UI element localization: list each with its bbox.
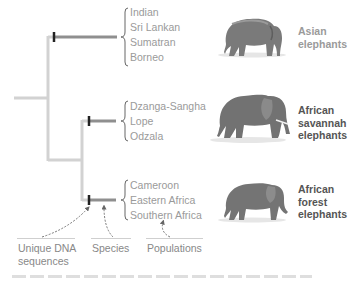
legend-species: Species	[92, 242, 129, 255]
population-item: Sri Lankan	[130, 20, 180, 35]
forest-population-list: Cameroon Eastern Africa Southern Africa	[130, 178, 202, 223]
label-line: Asian	[298, 25, 347, 38]
population-item: Lope	[130, 114, 206, 129]
population-item: Dzanga-Sangha	[130, 99, 206, 114]
label-line: forest	[298, 196, 347, 209]
african-forest-elephant-image	[218, 183, 288, 222]
population-item: Cameroon	[130, 178, 202, 193]
african-savannah-elephant-image	[210, 95, 290, 143]
population-item: Odzala	[130, 129, 206, 144]
label-line: elephants	[298, 38, 347, 51]
label-line: African	[298, 183, 347, 196]
african-forest-elephants-label: African forest elephants	[298, 183, 347, 221]
legend-rule-populations	[146, 238, 203, 239]
legend-populations: Populations	[147, 242, 202, 255]
population-item: Indian	[130, 5, 180, 20]
legend-rule-dna	[17, 238, 75, 239]
legend-line: sequences	[18, 255, 76, 268]
legend-unique-dna: Unique DNA sequences	[18, 242, 76, 267]
label-line: African	[298, 104, 347, 117]
label-line: savannah	[298, 117, 347, 130]
label-line: elephants	[298, 129, 347, 142]
african-savannah-elephants-label: African savannah elephants	[298, 104, 347, 142]
population-item: Sumatran	[130, 35, 180, 50]
savannah-population-list: Dzanga-Sangha Lope Odzala	[130, 99, 206, 144]
asian-population-list: Indian Sri Lankan Sumatran Borneo	[130, 5, 180, 65]
label-line: elephants	[298, 208, 347, 221]
population-item: Eastern Africa	[130, 193, 202, 208]
cropped-caption-line	[12, 275, 312, 278]
asian-elephant-image	[218, 19, 286, 58]
population-item: Southern Africa	[130, 208, 202, 223]
population-item: Borneo	[130, 50, 180, 65]
legend-rule-species	[91, 238, 131, 239]
legend-line: Unique DNA	[18, 242, 76, 255]
asian-elephants-label: Asian elephants	[298, 25, 347, 50]
